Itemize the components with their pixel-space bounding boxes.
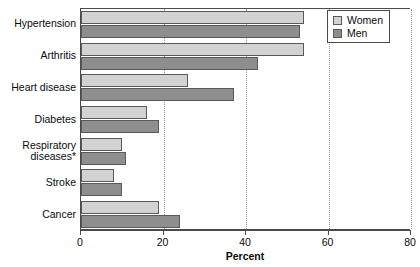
bar-chart: HypertensionArthritisHeart diseaseDiabet… <box>0 0 420 267</box>
x-tick-label: 40 <box>239 236 251 248</box>
legend-label-women: Women <box>347 15 383 25</box>
bar-women <box>81 11 304 24</box>
x-tick <box>410 230 411 235</box>
category-label-line: Heart disease <box>0 82 76 93</box>
category-label-line: diseases* <box>0 151 76 162</box>
category-label: Diabetes <box>0 114 76 125</box>
legend-swatch-women <box>333 16 342 25</box>
bar-women <box>81 201 159 214</box>
category-label-line: Stroke <box>0 177 76 188</box>
x-axis-title: Percent <box>80 250 410 262</box>
category-label: Arthritis <box>0 50 76 61</box>
bar-men <box>81 88 234 101</box>
category-label-line: Arthritis <box>0 50 76 61</box>
legend-item-women: Women <box>333 15 383 25</box>
category-label-line: Cancer <box>0 209 76 220</box>
bar-men <box>81 152 126 165</box>
bar-group <box>81 201 410 229</box>
x-tick <box>163 230 164 235</box>
x-tick <box>245 230 246 235</box>
x-tick-label: 60 <box>322 236 334 248</box>
category-label: Hypertension <box>0 18 76 29</box>
legend: Women Men <box>327 10 390 43</box>
bar-men <box>81 57 258 70</box>
bar-men <box>81 215 180 228</box>
category-label: Stroke <box>0 177 76 188</box>
category-label: Heart disease <box>0 82 76 93</box>
bar-women <box>81 169 114 182</box>
legend-item-men: Men <box>333 28 383 38</box>
x-tick <box>328 230 329 235</box>
bar-women <box>81 43 304 56</box>
bar-group <box>81 74 410 102</box>
category-label-line: Hypertension <box>0 18 76 29</box>
category-label: Cancer <box>0 209 76 220</box>
bar-men <box>81 120 159 133</box>
bar-group <box>81 43 410 71</box>
x-tick-label: 0 <box>77 236 83 248</box>
x-tick-label: 20 <box>157 236 169 248</box>
legend-swatch-men <box>333 29 342 38</box>
bar-women <box>81 138 122 151</box>
bar-men <box>81 25 300 38</box>
gridline-80 <box>411 9 412 229</box>
bar-group <box>81 169 410 197</box>
category-label-line: Diabetes <box>0 114 76 125</box>
legend-label-men: Men <box>347 28 367 38</box>
category-label: Respiratorydiseases* <box>0 140 76 162</box>
bar-men <box>81 183 122 196</box>
x-tick <box>80 230 81 235</box>
bar-women <box>81 74 188 87</box>
bar-group <box>81 106 410 134</box>
x-tick-label: 80 <box>404 236 416 248</box>
bar-women <box>81 106 147 119</box>
bar-group <box>81 138 410 166</box>
